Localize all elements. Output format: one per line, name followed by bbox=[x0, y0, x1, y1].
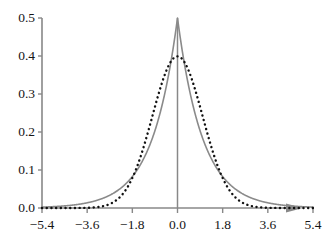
x-axis-tick-label: −5.4 bbox=[17, 218, 67, 232]
y-axis-tick-label: 0.4 bbox=[18, 49, 35, 63]
x-axis-tick-label: 0.0 bbox=[153, 218, 203, 232]
y-axis-tick-label: 0.1 bbox=[18, 163, 35, 177]
x-axis-tick-label: −3.6 bbox=[62, 218, 112, 232]
y-axis-tick-label: 0.0 bbox=[18, 201, 35, 215]
x-axis-tick-label: 3.6 bbox=[243, 218, 293, 232]
chart-figure: 0.00.10.20.30.40.5 −5.4−3.6−1.80.01.83.6… bbox=[0, 0, 334, 238]
axes-group bbox=[38, 18, 313, 213]
y-axis-tick-label: 0.3 bbox=[18, 87, 35, 101]
x-axis-tick-label: 5.4 bbox=[288, 218, 334, 232]
chart-plot-area bbox=[0, 0, 334, 238]
x-axis-tick-label: −1.8 bbox=[107, 218, 157, 232]
x-axis-tick-label: 1.8 bbox=[198, 218, 248, 232]
y-axis-tick-label: 0.5 bbox=[18, 11, 35, 25]
y-axis-tick-label: 0.2 bbox=[18, 125, 35, 139]
